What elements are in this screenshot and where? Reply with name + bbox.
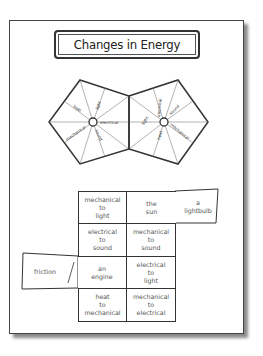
left-label-light: light: [94, 100, 102, 110]
left-label-heat: heat: [72, 104, 83, 114]
card-text: the sun: [146, 200, 157, 216]
card-electrical-to-light: electrical to light: [126, 256, 176, 289]
flap-friction: friction: [24, 268, 66, 276]
flap-a-lightbulb: a lightbulb: [178, 199, 218, 215]
card-mechanical-to-light: mechanical to light: [78, 191, 127, 224]
card-text: heat to mechanical: [84, 293, 120, 317]
card-text: electrical to light: [137, 261, 166, 285]
left-label-electrical: electrical: [100, 120, 118, 125]
card-the-sun: the sun: [126, 191, 176, 224]
right-label-mechanical: mechanical: [169, 122, 190, 141]
right-label-light: light: [141, 115, 150, 126]
card-an-engine: an engine: [78, 256, 127, 289]
right-label-heat: heat: [156, 130, 163, 140]
card-mechanical-to-electrical: mechanical to electrical: [126, 288, 176, 322]
card-text: mechanical to sound: [133, 228, 169, 252]
left-label-sound: sound: [94, 128, 104, 142]
card-text: mechanical to electrical: [133, 293, 169, 317]
right-label-sound: sound: [168, 103, 180, 115]
card-text: electrical to sound: [88, 228, 117, 252]
left-label-mechanical: mechanical: [65, 125, 87, 142]
card-text: an engine: [91, 265, 112, 281]
card-mechanical-to-sound: mechanical to sound: [126, 223, 176, 257]
card-text: mechanical to light: [84, 196, 120, 220]
card-heat-to-mechanical: heat to mechanical: [78, 288, 127, 322]
card-electrical-to-sound: electrical to sound: [78, 223, 127, 257]
